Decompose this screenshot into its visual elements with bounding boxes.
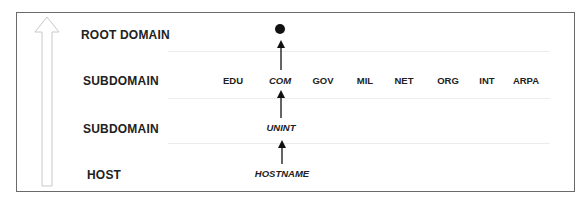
level-divider — [168, 143, 550, 144]
level-divider — [168, 98, 550, 99]
level-divider — [168, 51, 550, 52]
tld-node-int: INT — [479, 75, 494, 86]
level-label-subdomain: SUBDOMAIN — [83, 122, 159, 136]
tld-node-com: COM — [269, 75, 291, 86]
tld-node-arpa: ARPA — [513, 75, 539, 86]
tld-node-mil: MIL — [357, 75, 373, 86]
tld-node-net: NET — [395, 75, 414, 86]
subdomain-node-unint: UNINT — [266, 122, 295, 133]
arrow-hostname-to-unint-icon — [276, 140, 288, 166]
arrow-com-to-root-icon — [275, 40, 287, 72]
hierarchy-up-arrow-icon — [33, 16, 61, 188]
level-label-subdomain-tld: SUBDOMAIN — [83, 74, 159, 88]
arrow-unint-to-com-icon — [275, 90, 287, 120]
root-node-dot-icon — [275, 24, 285, 34]
tld-node-edu: EDU — [223, 75, 243, 86]
tld-node-gov: GOV — [312, 75, 333, 86]
level-label-host: HOST — [87, 168, 121, 182]
tld-node-org: ORG — [437, 75, 459, 86]
level-label-root-domain: ROOT DOMAIN — [81, 28, 170, 42]
host-node-hostname: HOSTNAME — [255, 168, 309, 179]
